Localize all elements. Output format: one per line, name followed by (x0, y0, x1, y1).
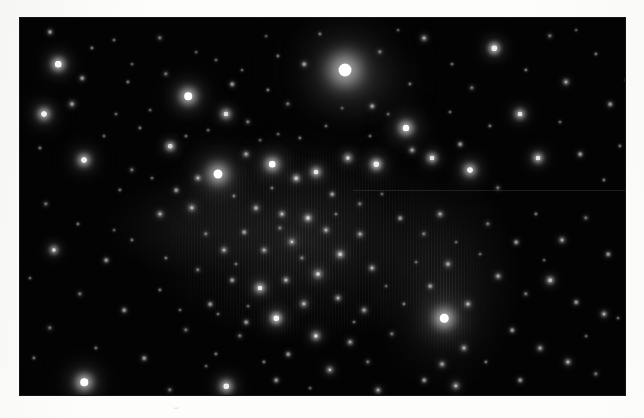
star-point (151, 177, 153, 179)
star-point (518, 112, 523, 117)
star-point (197, 269, 199, 271)
star-point (190, 206, 193, 209)
star-point (77, 223, 79, 225)
astronomical-plate (20, 18, 625, 395)
star-point (131, 169, 133, 171)
figure-caption-text: a cluster of faint stars in the central … (24, 407, 620, 410)
star-point (52, 248, 56, 252)
star-point (247, 121, 249, 123)
star-point (441, 363, 444, 366)
star-point (263, 249, 266, 252)
star-point (113, 229, 115, 231)
star-point (243, 231, 246, 234)
star-point (209, 303, 212, 306)
star-point (175, 189, 178, 192)
star-point (247, 305, 249, 307)
star-point (565, 81, 568, 84)
star-point (339, 64, 352, 77)
star-point (479, 253, 481, 255)
star-point (165, 73, 167, 75)
star-point (440, 314, 449, 323)
star-point (373, 161, 379, 167)
star-point (95, 347, 97, 349)
star-point (353, 321, 355, 323)
star-point (55, 61, 62, 68)
star-point (39, 147, 41, 149)
star-point (245, 321, 248, 324)
star-point (303, 63, 306, 66)
star-point (519, 379, 522, 382)
star-point (449, 111, 451, 113)
star-point (215, 59, 217, 61)
star-point (536, 156, 541, 161)
star-point (371, 267, 374, 270)
star-point (33, 357, 35, 359)
star-point (423, 379, 426, 382)
star-point (471, 87, 473, 89)
star-point (409, 83, 411, 85)
star-point (466, 302, 469, 305)
star-point (467, 167, 473, 173)
star-point (81, 157, 87, 163)
star-point (447, 263, 450, 266)
star-point (455, 241, 457, 243)
star-point (205, 365, 207, 367)
star-point (359, 233, 362, 236)
star-point (491, 45, 497, 51)
star-point (49, 31, 52, 34)
star-point (185, 329, 187, 331)
star-point (271, 187, 273, 189)
scan-seam-line (353, 190, 625, 191)
star-point (335, 213, 337, 215)
star-point (49, 327, 51, 329)
star-point (314, 334, 318, 338)
star-point (245, 153, 248, 156)
star-point (579, 153, 582, 156)
star-point (328, 368, 331, 371)
star-point (279, 227, 281, 229)
star-field-image (20, 18, 625, 395)
star-point (215, 353, 217, 355)
star-point (105, 259, 108, 262)
star-point (385, 285, 387, 287)
star-point (231, 279, 234, 282)
star-point (277, 133, 279, 135)
star-point (131, 63, 133, 65)
star-point (423, 37, 426, 40)
star-point (302, 302, 305, 305)
star-point (381, 193, 383, 195)
star-point (485, 361, 487, 363)
star-point (29, 277, 31, 279)
star-point (185, 135, 187, 137)
star-point (561, 239, 564, 242)
star-point (265, 35, 267, 37)
star-point (575, 29, 577, 31)
star-point (585, 217, 587, 219)
star-point (113, 39, 115, 41)
star-point (525, 293, 527, 295)
star-point (325, 229, 328, 232)
star-point (399, 217, 402, 220)
star-point (525, 69, 527, 71)
star-point (214, 170, 223, 179)
star-point (223, 249, 226, 252)
star-point (165, 257, 167, 259)
star-point (497, 187, 499, 189)
star-point (207, 129, 209, 131)
star-point (595, 373, 597, 375)
star-point (619, 145, 621, 147)
star-point (511, 329, 514, 332)
star-point (559, 121, 561, 123)
star-point (131, 239, 133, 241)
star-point (341, 107, 343, 109)
star-point (363, 309, 366, 312)
ccd-bleed-artifact (20, 18, 625, 395)
star-point (617, 317, 619, 319)
star-point (316, 272, 320, 276)
star-point (497, 275, 500, 278)
star-point (535, 213, 537, 215)
star-point (277, 55, 279, 57)
star-point (387, 113, 389, 115)
star-point (549, 35, 551, 37)
star-point (430, 156, 435, 161)
